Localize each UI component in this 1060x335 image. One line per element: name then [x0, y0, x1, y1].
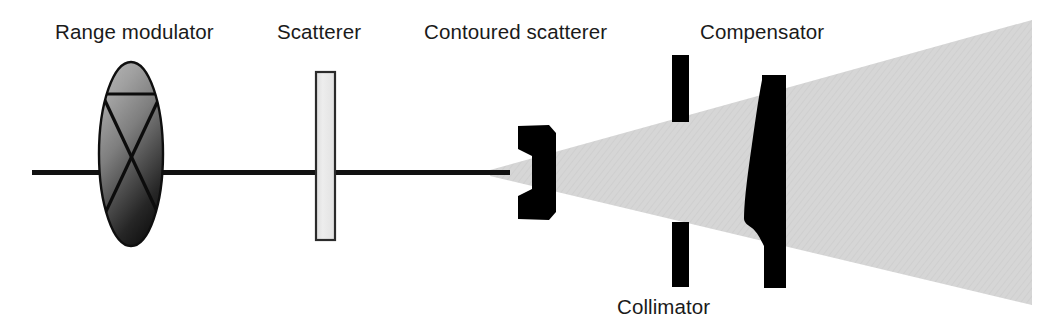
label-compensator: Compensator: [700, 22, 824, 43]
nozzle-diagram: Range modulator Scatterer Contoured scat…: [0, 0, 1060, 335]
label-range-modulator: Range modulator: [55, 22, 214, 43]
collimator-lower-jaw: [672, 222, 689, 287]
label-scatterer: Scatterer: [277, 22, 361, 43]
collimator-upper-jaw: [672, 55, 689, 122]
range-modulator: [99, 62, 163, 246]
label-collimator: Collimator: [617, 297, 710, 318]
scatterer: [316, 72, 335, 240]
diagram-canvas: [0, 0, 1060, 335]
label-contoured-scatterer: Contoured scatterer: [424, 22, 607, 43]
